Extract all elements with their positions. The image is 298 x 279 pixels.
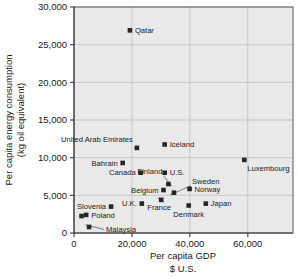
data-marker [186,203,191,208]
data-point-label: Finland [138,167,163,176]
y-axis-title-line2: (kg oil equivalent) [15,83,26,157]
data-marker [162,170,167,175]
data-marker [135,146,140,151]
y-tick-label: 25,000 [38,39,67,50]
data-point-label: France [147,203,171,212]
data-marker [187,187,192,192]
x-axis-title: Per capita GDP [150,250,216,261]
data-point-label: Belgium [131,186,158,195]
data-point-label: Iceland [170,140,195,149]
data-point-label: Norway [195,185,221,194]
data-point-label: Canada [109,168,136,177]
data-marker [162,142,167,147]
y-tick-label: 20,000 [38,77,67,88]
data-marker [159,198,164,203]
data-point-label: U.K. [122,199,137,208]
x-axis-ticks: 020,00040,00060,000 [71,233,262,249]
y-tick-label: 5,000 [43,190,67,201]
y-tick-label: 0 [62,227,67,238]
y-axis-title-line1: Per capita energy consumption [3,55,14,186]
y-tick-label: 30,000 [38,1,67,12]
data-marker [161,188,166,193]
data-point-label: Malaysia [106,225,137,234]
x-tick-label: 60,000 [233,238,262,249]
x-tick-label: 0 [71,238,76,249]
x-tick-label: 20,000 [117,238,146,249]
data-marker [120,161,125,166]
y-tick-label: 10,000 [38,152,67,163]
y-tick-label: 15,000 [38,114,67,125]
data-point-label: United Arab Emirates [61,135,133,144]
data-point-label: Luxembourg [247,164,289,173]
data-marker [79,214,84,219]
data-marker [109,204,114,209]
data-marker [84,213,89,218]
data-marker [166,182,171,187]
data-marker [242,158,247,163]
scatter-chart: 05,00010,00015,00020,00025,00030,000 020… [0,0,298,279]
x-tick-label: 40,000 [175,238,204,249]
data-point-label: Bahrain [91,159,117,168]
data-point-label: Poland [91,211,115,220]
chart-canvas: 05,00010,00015,00020,00025,00030,000 020… [0,0,298,279]
data-marker [139,201,144,206]
data-marker [172,190,177,195]
data-point-label: Qatar [135,26,154,35]
data-point-label: Japan [211,199,232,208]
x-axis-subtitle: $ U.S. [170,263,196,274]
data-marker [204,201,209,206]
data-point-label: Denmark [173,210,204,219]
data-marker [128,28,133,33]
data-point-label: U.S. [170,168,185,177]
y-axis-ticks: 05,00010,00015,00020,00025,00030,000 [38,1,74,238]
data-marker [87,225,92,230]
